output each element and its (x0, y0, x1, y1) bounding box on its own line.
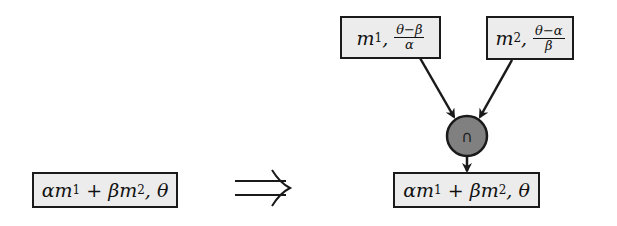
top-right-var: m (495, 27, 513, 49)
intersection-icon: ∩ (461, 127, 473, 146)
left-node-term1: αm (42, 179, 73, 201)
top-left-sep: , (382, 27, 388, 49)
top-right-denominator: β (545, 39, 553, 53)
left-node: αm1 + βm2, θ (32, 172, 178, 208)
bottom-node-term1: αm (403, 179, 434, 201)
top-right-numerator: θ−α (533, 24, 565, 39)
top-left-denominator: α (405, 38, 414, 52)
bottom-node-sub1: 1 (434, 183, 442, 197)
bottom-node-theta: , θ (506, 179, 530, 201)
top-right-sep: , (521, 27, 527, 49)
top-right-node: m2, θ−αβ (486, 16, 574, 60)
top-left-sub: 1 (375, 31, 383, 45)
left-node-term2: + βm (80, 179, 137, 201)
bottom-node-term2: + βm (442, 179, 499, 201)
edge-top-left-to-merge (420, 58, 454, 117)
top-left-node: m1, θ−βα (340, 16, 441, 59)
implies-arrow-icon (235, 170, 290, 206)
top-right-sub: 2 (513, 31, 521, 45)
top-left-var: m (357, 27, 375, 49)
left-node-sub1: 1 (73, 183, 81, 197)
bottom-node-sub2: 2 (499, 183, 507, 197)
top-left-fraction: θ−βα (394, 23, 424, 51)
bottom-node: αm1 + βm2, θ (393, 172, 540, 208)
left-node-sub2: 2 (137, 183, 145, 197)
top-right-fraction: θ−αβ (533, 24, 565, 52)
left-node-theta: , θ (145, 179, 169, 201)
edge-top-right-to-merge (480, 60, 512, 117)
top-left-numerator: θ−β (394, 23, 424, 38)
